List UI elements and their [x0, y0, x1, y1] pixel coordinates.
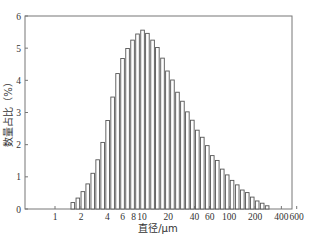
bar [101, 142, 105, 209]
x-tick-label: 200 [248, 212, 263, 222]
bar [210, 156, 214, 209]
bar [136, 34, 140, 209]
bar [205, 146, 209, 209]
bar [146, 33, 150, 209]
bar [151, 40, 155, 209]
bar [250, 197, 254, 209]
bar [171, 80, 175, 209]
y-tick-label: 6 [16, 12, 21, 22]
x-tick-label: 4 [105, 212, 110, 222]
bar [91, 173, 95, 209]
bar [235, 185, 239, 209]
x-tick-label: 20 [163, 212, 173, 222]
bar [96, 160, 100, 209]
particle-size-distribution-chart: 0123456 1246810204060100200400600 直径/μm … [0, 0, 310, 247]
y-axis: 0123456 [16, 12, 28, 215]
bar [81, 192, 85, 209]
x-tick-label: 10 [137, 212, 147, 222]
x-tick-label: 60 [205, 212, 215, 222]
bar [255, 201, 259, 209]
bar [201, 137, 205, 209]
x-tick-label: 400 [274, 212, 289, 222]
x-tick-label: 100 [222, 212, 237, 222]
y-tick-label: 3 [16, 108, 21, 118]
y-axis-title: 数量占比（%） [2, 77, 14, 147]
bar [265, 206, 269, 209]
bar [225, 175, 229, 209]
bar [215, 160, 219, 209]
x-tick-label: 1 [53, 212, 58, 222]
bar [166, 71, 170, 209]
bar [71, 203, 75, 209]
bar [86, 184, 90, 209]
bar [220, 169, 224, 209]
bar [141, 30, 145, 209]
bar [186, 112, 190, 209]
bar-series [71, 30, 269, 209]
y-tick-label: 1 [16, 172, 21, 182]
x-tick-label: 600 [290, 212, 305, 222]
y-tick-label: 2 [16, 140, 21, 150]
bar [156, 48, 160, 209]
bar [106, 121, 110, 209]
bar [176, 92, 180, 209]
x-tick-label: 8 [131, 212, 136, 222]
x-tick-label: 40 [190, 212, 200, 222]
bar [191, 120, 195, 209]
bar [111, 97, 115, 209]
bar [76, 198, 80, 209]
y-tick-label: 4 [16, 76, 21, 86]
bar [116, 74, 120, 209]
bar [131, 40, 135, 209]
bar [181, 101, 185, 209]
bar [161, 58, 165, 209]
bar [245, 193, 249, 209]
y-tick-label: 0 [16, 205, 21, 215]
bar [241, 190, 245, 209]
bar [260, 203, 264, 209]
x-axis-title: 直径/μm [138, 222, 177, 234]
x-tick-label: 6 [120, 212, 125, 222]
y-tick-label: 5 [16, 44, 21, 54]
bar [121, 58, 125, 209]
bar [126, 48, 130, 209]
bar [196, 130, 200, 209]
bar [230, 180, 234, 209]
x-tick-label: 2 [79, 212, 84, 222]
